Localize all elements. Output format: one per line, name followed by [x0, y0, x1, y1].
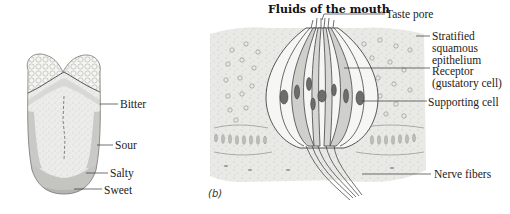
figure-title: Fluids of the mouth — [268, 3, 390, 16]
label-nerve-fibers: Nerve fibers — [434, 168, 491, 180]
label-gustatory-cell: (gustatory cell) — [432, 77, 502, 89]
label-receptor: Receptor — [432, 65, 474, 77]
label-sweet: Sweet — [104, 184, 132, 196]
label-sour: Sour — [115, 139, 137, 151]
label-stratified: Stratified — [432, 30, 475, 42]
label-supporting-cell: Supporting cell — [428, 96, 499, 108]
tongue-illustration — [20, 45, 110, 205]
taste-bud-illustration — [210, 18, 426, 200]
panel-label-b: (b) — [208, 188, 222, 199]
label-bitter: Bitter — [120, 98, 146, 110]
label-salty: Salty — [110, 167, 134, 179]
label-taste-pore: Taste pore — [386, 8, 433, 20]
label-squamous: squamous — [432, 42, 478, 54]
